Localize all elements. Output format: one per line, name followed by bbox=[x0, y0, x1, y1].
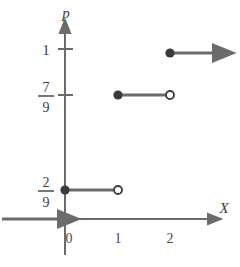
y-tick-labels-group: 1 7 9 2 9 bbox=[38, 42, 54, 210]
y-tick-label-one: 1 bbox=[42, 42, 50, 58]
filled-dot-0-two-ninths bbox=[60, 185, 69, 194]
fraction-denominator-nine-2: 9 bbox=[43, 195, 50, 210]
y-axis-label: p bbox=[61, 5, 70, 21]
filled-dot-2-one bbox=[165, 48, 174, 57]
open-dot-2-seven-ninths bbox=[166, 91, 174, 99]
open-dot-1-two-ninths bbox=[114, 186, 122, 194]
cdf-step-plot-figure: p X 1 7 9 2 9 0 bbox=[0, 0, 240, 267]
plot-canvas: p X 1 7 9 2 9 0 bbox=[0, 0, 240, 267]
x-tick-label-1: 1 bbox=[115, 231, 122, 246]
x-tick-label-0: 0 bbox=[66, 231, 73, 246]
y-tick-label-two-ninths: 2 9 bbox=[38, 175, 54, 210]
y-tick-label-seven-ninths: 7 9 bbox=[38, 80, 54, 115]
step-segments-group bbox=[2, 53, 215, 219]
x-tick-labels-group: 0 1 2 bbox=[66, 231, 174, 246]
axes-group: p X bbox=[61, 5, 229, 255]
x-tick-label-2: 2 bbox=[167, 231, 174, 246]
x-axis-label: X bbox=[218, 200, 229, 216]
filled-dot-1-seven-ninths bbox=[113, 90, 122, 99]
fraction-numerator-seven: 7 bbox=[43, 80, 50, 95]
endpoint-markers-group bbox=[60, 48, 174, 194]
fraction-denominator-nine: 9 bbox=[43, 100, 50, 115]
fraction-numerator-two: 2 bbox=[43, 175, 50, 190]
